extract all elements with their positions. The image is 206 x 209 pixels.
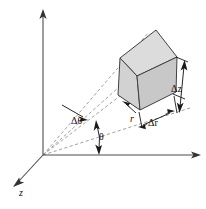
ray-lower-dashed [43, 108, 190, 155]
z-axis-label: z [19, 188, 23, 198]
figure-canvas [0, 0, 206, 209]
delta-r-tick-left [139, 112, 142, 128]
radius-label: r [130, 114, 134, 124]
delta-r-tick-right [174, 96, 177, 113]
delta-r-label: Δr [148, 118, 158, 128]
z-axis-arrowhead [13, 178, 24, 187]
delta-theta-label: Δθ [71, 116, 82, 126]
cylindrical-volume-element-figure: Δz Δr Δθ r θ z [0, 0, 206, 209]
delta-z-tick-top [176, 57, 188, 62]
theta-arrowhead-top [94, 120, 100, 131]
delta-z-label: Δz [171, 84, 182, 94]
volume-element-solid [118, 30, 177, 110]
theta-label: θ [99, 132, 104, 142]
theta-arrowhead-bottom [95, 144, 102, 155]
z-axis-line [19, 155, 43, 181]
